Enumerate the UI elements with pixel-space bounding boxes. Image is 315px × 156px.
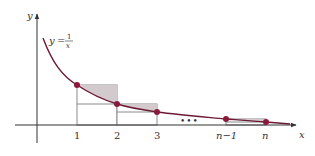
point-1 xyxy=(74,82,80,88)
ellipsis: ••• xyxy=(180,116,199,126)
point-n-minus-1 xyxy=(223,116,229,122)
svg-text:=: = xyxy=(57,35,65,46)
point-2 xyxy=(114,101,120,107)
point-n xyxy=(263,119,269,125)
svg-text:1: 1 xyxy=(67,33,71,41)
svg-text:x: x xyxy=(66,42,70,50)
tick-label-n-minus-1: n−1 xyxy=(216,130,237,141)
tick-label-2: 2 xyxy=(114,130,120,141)
x-axis-label: x xyxy=(299,129,305,140)
curve-label: y = 1 x xyxy=(48,33,73,50)
svg-text:y: y xyxy=(48,35,55,46)
point-3 xyxy=(154,109,160,115)
tick-label-3: 3 xyxy=(154,130,160,141)
tick-label-n: n xyxy=(262,130,268,141)
diagram-canvas: y x y = 1 x 1 2 3 n−1 n ••• xyxy=(0,0,315,156)
y-axis-label: y xyxy=(26,10,33,21)
tick-label-1: 1 xyxy=(74,130,80,141)
